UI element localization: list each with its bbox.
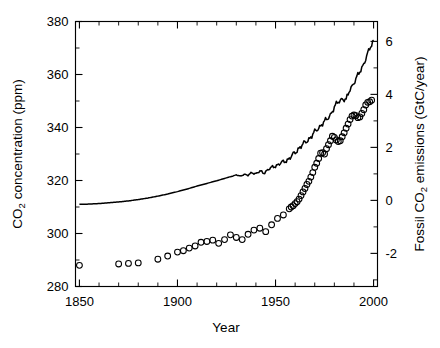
chart-canvas: 1850190019502000 280300320340360380 -202… [0, 0, 440, 348]
y-right-title-part-rest: emissions (GtC/year) [412, 56, 427, 187]
y-left-tick-label: 360 [47, 67, 69, 82]
co2-figure: 1850190019502000 280300320340360380 -202… [0, 0, 440, 348]
y-left-tick-label: 320 [47, 173, 69, 188]
x-axis-title: Year [212, 320, 240, 335]
y-left-tick-label: 340 [47, 120, 69, 135]
y-left-tick-label: 280 [47, 279, 69, 294]
y-right-tick-label: 6 [386, 34, 393, 49]
y-left-tick-label: 380 [47, 14, 69, 29]
x-axis-title-group: Year [212, 320, 240, 335]
y-right-tick-label: 2 [386, 140, 393, 155]
y-right-tick-label: -2 [386, 246, 398, 261]
x-axis-tick-label: 1900 [163, 294, 192, 309]
y-left-tick-label: 300 [47, 226, 69, 241]
y-left-title-part-main: CO [10, 208, 25, 228]
x-axis-tick-label: 2000 [359, 294, 388, 309]
y-left-title-part-rest: concentration (ppm) [10, 79, 25, 203]
x-axis-tick-label: 1850 [65, 294, 94, 309]
x-axis-tick-label: 1950 [261, 294, 290, 309]
y-right-tick-label: 4 [386, 87, 393, 102]
y-right-title-part-main: Fossil CO [412, 192, 427, 251]
y-right-title-group: Fossil CO2 emissions (GtC/year) [412, 56, 429, 251]
y-right-tick-label: 0 [386, 193, 393, 208]
y-right-axis-title: Fossil CO2 emissions (GtC/year) [412, 56, 429, 251]
